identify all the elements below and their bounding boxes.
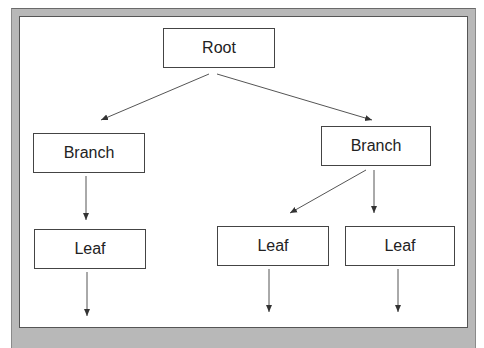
node-root-label: Root: [202, 39, 236, 57]
node-root: Root: [163, 28, 275, 68]
node-leaf-left: Leaf: [34, 229, 146, 269]
node-branch-left: Branch: [33, 133, 145, 173]
node-leaf-right-label: Leaf: [384, 237, 415, 255]
node-leaf-right: Leaf: [345, 226, 455, 266]
node-branch-right-label: Branch: [351, 137, 402, 155]
node-branch-right: Branch: [321, 126, 431, 166]
node-leaf-left-label: Leaf: [74, 240, 105, 258]
node-leaf-middle-label: Leaf: [257, 237, 288, 255]
node-leaf-middle: Leaf: [217, 226, 329, 266]
node-branch-left-label: Branch: [64, 144, 115, 162]
